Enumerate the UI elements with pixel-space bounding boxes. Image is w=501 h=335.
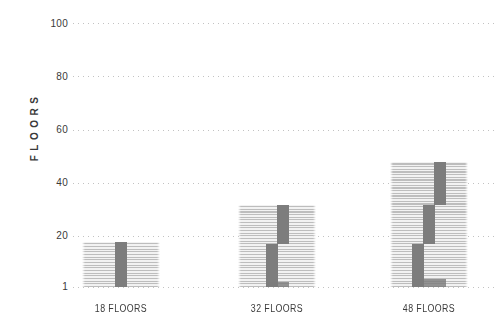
y-tick-label: 60 — [28, 124, 68, 136]
elevator-shaft — [277, 205, 289, 245]
y-tick-label: 1 — [28, 281, 68, 293]
ground-lobby — [412, 279, 446, 287]
category-label: 18 FLOORS — [68, 303, 174, 314]
ground-lobby — [266, 282, 289, 287]
y-tick-label: 100 — [28, 18, 68, 30]
y-tick-label: 80 — [28, 71, 68, 83]
y-gridline — [73, 130, 497, 131]
elevator-shaft — [423, 205, 435, 245]
elevator-zoning-chart: FLOORS 10080604020118 FLOORS32 FLOORS48 … — [0, 0, 501, 335]
category-label: 32 FLOORS — [224, 303, 330, 314]
y-gridline — [73, 76, 497, 77]
y-tick-label: 40 — [28, 177, 68, 189]
category-label: 48 FLOORS — [376, 303, 482, 314]
elevator-shaft — [266, 244, 278, 287]
elevator-shaft — [434, 162, 446, 205]
y-gridline — [73, 23, 497, 24]
y-tick-label: 20 — [28, 230, 68, 242]
elevator-shaft — [115, 242, 127, 287]
